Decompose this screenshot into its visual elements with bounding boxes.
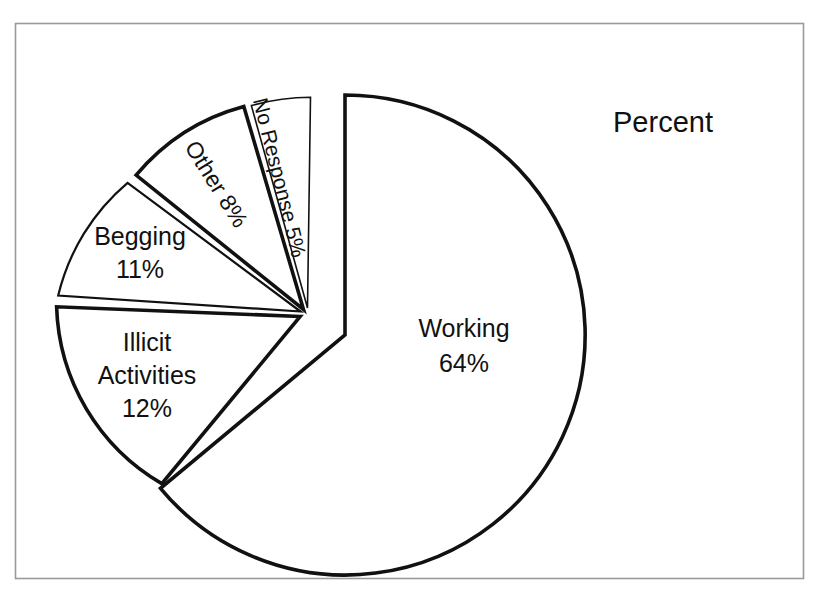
begging-slice-value: 11% — [116, 255, 164, 283]
working-slice-value: 64% — [439, 349, 489, 377]
begging-slice-label: Begging — [94, 222, 186, 250]
illicit-activities-slice-value: 12% — [122, 394, 172, 422]
illicit-activities-slice-label-line1: Illicit — [123, 328, 172, 356]
pie-chart-figure: Percent Working 64% Illicit Activities 1… — [0, 0, 817, 599]
pie-chart-canvas: Percent Working 64% Illicit Activities 1… — [0, 0, 817, 599]
working-slice-label: Working — [418, 314, 509, 342]
illicit-activities-slice-label-line2: Activities — [98, 361, 197, 389]
chart-title: Percent — [613, 106, 713, 138]
